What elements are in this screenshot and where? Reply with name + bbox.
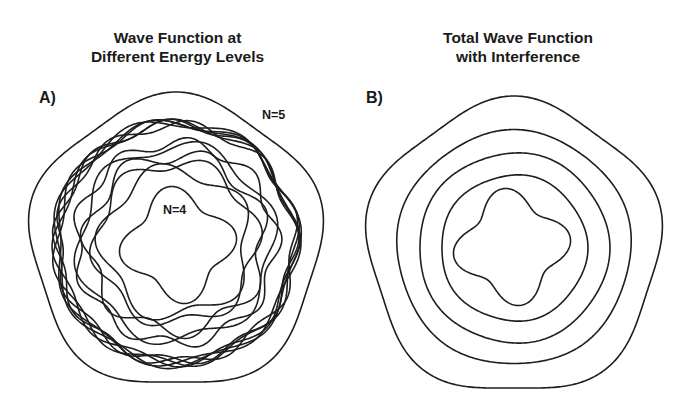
wave-diagram — [0, 0, 693, 408]
panel-b-curves — [366, 96, 663, 388]
panel-b-label: B) — [366, 89, 383, 107]
total-wave-inner — [453, 188, 570, 305]
annotation-n4: N=4 — [163, 203, 186, 217]
total-wave-ring-3 — [442, 175, 588, 321]
total-wave-ring-1 — [397, 130, 631, 364]
panel-a-curves — [29, 92, 324, 382]
wave-n5-outer — [29, 92, 324, 382]
annotation-n5: N=5 — [262, 108, 285, 122]
total-wave-ring-2 — [420, 153, 610, 343]
panel-a-label: A) — [39, 89, 56, 107]
total-wave-outer — [366, 96, 663, 388]
